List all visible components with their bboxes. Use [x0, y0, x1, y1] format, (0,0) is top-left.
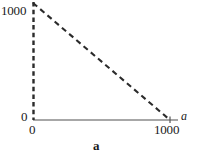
budget-constraint-dashed-line — [33, 3, 170, 120]
x-axis-origin-label: 0 — [29, 123, 36, 136]
x-axis-variable-label: a — [181, 110, 187, 122]
x-axis-max-label: 1000 — [154, 123, 179, 136]
y-axis-max-label: 1000 — [1, 4, 26, 17]
y-axis-origin-label: 0 — [21, 110, 28, 123]
figure-panel: 1000 0 0 1000 a a — [0, 0, 199, 163]
figure-caption: a — [93, 139, 100, 152]
